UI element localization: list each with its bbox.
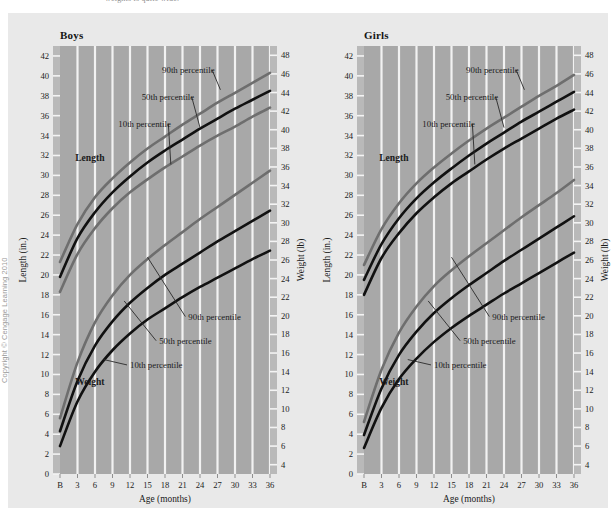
x-axis-tick-label: 15: [143, 480, 152, 490]
length-group-label: Length: [379, 152, 409, 163]
percentile-annotation-label: 90th percentile: [188, 312, 241, 322]
panel-girls: Girls 0246810121416182022242628303234363…: [312, 13, 612, 508]
left-axis-tick-label: 2: [349, 449, 353, 459]
x-axis-tick-label: 27: [213, 480, 222, 490]
left-axis-tick-label: 2: [45, 449, 49, 459]
left-axis-tick-label: 18: [344, 290, 353, 300]
right-axis-tick-label: 12: [281, 385, 290, 395]
left-axis-tick-label: 36: [344, 111, 353, 121]
x-axis-tick-label: 6: [93, 480, 98, 490]
x-axis-tick-label: 3: [379, 480, 383, 490]
right-axis-tick-label: 24: [585, 274, 594, 284]
right-axis-tick-label: 16: [281, 348, 290, 358]
left-axis-tick-label: 4: [45, 429, 50, 439]
plot-girls: 0246810121416182022242628303234363840424…: [312, 13, 612, 508]
growth-chart-figure: weights is quite wide. Copyright © Cenga…: [0, 0, 616, 521]
left-axis-tick-label: 20: [344, 270, 353, 280]
right-axis-tick-label: 14: [281, 367, 290, 377]
left-axis-tick-label: 24: [344, 230, 353, 240]
left-axis-tick-label: 22: [344, 250, 353, 260]
left-axis-tick-label: 6: [45, 409, 50, 419]
percentile-annotation-label: 10th percentile: [118, 119, 171, 129]
right-axis-tick-label: 38: [585, 143, 594, 153]
right-axis-tick-label: 46: [281, 69, 290, 79]
x-axis-tick-label: 18: [465, 480, 474, 490]
left-axis-tick-label: 30: [40, 170, 49, 180]
left-axis-tick-label: 8: [45, 389, 49, 399]
percentile-annotation-label: 10th percentile: [130, 360, 183, 370]
right-axis-tick-label: 4: [585, 460, 590, 470]
left-axis-tick-label: 40: [40, 71, 49, 81]
left-axis-tick-label: 8: [349, 389, 353, 399]
percentile-annotation-label: 50th percentile: [463, 336, 516, 346]
right-axis-tick-label: 30: [281, 218, 290, 228]
x-axis-tick-label: 30: [231, 480, 240, 490]
x-axis-tick-label: 36: [266, 480, 275, 490]
right-axis-tick-label: 16: [585, 348, 594, 358]
weight-group-label: Weight: [379, 376, 409, 387]
right-axis-tick-label: 10: [281, 404, 290, 414]
percentile-annotation-label: 90th percentile: [492, 312, 545, 322]
right-axis-tick-label: 48: [585, 50, 594, 60]
left-axis-tick-label: 30: [344, 170, 353, 180]
left-axis-tick-label: 42: [344, 51, 353, 61]
x-axis-tick-label: 27: [517, 480, 526, 490]
x-axis-tick-label: 33: [552, 480, 561, 490]
right-axis-tick-label: 4: [281, 460, 286, 470]
left-axis-tick-label: 34: [344, 131, 353, 141]
right-axis-tick-label: 44: [585, 88, 594, 98]
left-axis-band: [357, 46, 364, 474]
right-axis-tick-label: 40: [281, 125, 290, 135]
left-axis-tick-label: 12: [344, 350, 353, 360]
x-axis-tick-label: 12: [126, 480, 135, 490]
right-axis-tick-label: 18: [281, 329, 290, 339]
length-group-label: Length: [75, 152, 105, 163]
right-axis-tick-label: 28: [281, 236, 290, 246]
x-axis-tick-label: 9: [110, 480, 114, 490]
x-axis-tick-label: 33: [248, 480, 257, 490]
right-axis-tick-label: 28: [585, 236, 594, 246]
x-axis-tick-label: 3: [75, 480, 79, 490]
left-axis-title: Length (in.): [18, 238, 29, 283]
percentile-annotation-label: 10th percentile: [434, 360, 487, 370]
left-axis-title: Length (in.): [322, 238, 333, 283]
right-axis-tick-label: 12: [585, 385, 594, 395]
left-axis-tick-label: 32: [344, 150, 353, 160]
percentile-annotation-label: 90th percentile: [466, 65, 519, 75]
left-axis-tick-label: 38: [40, 91, 49, 101]
clipped-caption-strip: weights is quite wide.: [0, 0, 616, 12]
right-axis-tick-label: 40: [585, 125, 594, 135]
left-axis-tick-label: 10: [344, 369, 353, 379]
right-axis-tick-label: 34: [281, 181, 290, 191]
right-axis-tick-label: 30: [585, 218, 594, 228]
percentile-annotation-label: 90th percentile: [162, 65, 215, 75]
right-axis-tick-label: 8: [585, 422, 589, 432]
left-axis-tick-label: 6: [349, 409, 354, 419]
left-axis-tick-label: 20: [40, 270, 49, 280]
x-axis-tick-label: B: [57, 480, 63, 490]
x-axis-tick-label: 18: [161, 480, 170, 490]
left-axis-tick-label: 16: [344, 310, 353, 320]
right-axis-tick-label: 42: [281, 106, 290, 116]
right-axis-tick-label: 26: [281, 255, 290, 265]
right-axis-tick-label: 14: [585, 367, 594, 377]
right-axis-tick-label: 6: [585, 441, 590, 451]
left-axis-tick-label: 38: [344, 91, 353, 101]
right-axis-tick-label: 20: [281, 311, 290, 321]
right-axis-tick-label: 42: [585, 106, 594, 116]
left-axis-tick-label: 16: [40, 310, 49, 320]
right-axis-tick-label: 44: [281, 88, 290, 98]
x-axis-tick-label: 30: [535, 480, 544, 490]
right-axis-tick-label: 8: [281, 422, 285, 432]
x-axis-tick-label: B: [361, 480, 367, 490]
right-axis-tick-label: 36: [281, 162, 290, 172]
x-axis-title: Age (months): [443, 494, 495, 505]
left-axis-tick-label: 14: [40, 330, 49, 340]
left-axis-tick-label: 0: [45, 469, 49, 479]
left-axis-tick-label: 40: [344, 71, 353, 81]
left-axis-tick-label: 26: [40, 210, 49, 220]
percentile-annotation-label: 50th percentile: [159, 336, 212, 346]
right-axis-title: Weight (lb): [600, 239, 611, 282]
x-axis-tick-label: 9: [414, 480, 418, 490]
panel-boys: Boys 02468101214161820222426283032343638…: [8, 13, 308, 508]
